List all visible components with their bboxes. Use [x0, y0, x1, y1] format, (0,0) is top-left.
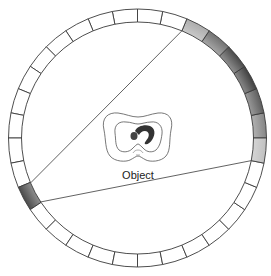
object-cross-section: Object — [103, 113, 171, 181]
object-label: Object — [122, 169, 154, 181]
detector-ring — [9, 9, 267, 267]
lung-outline — [115, 122, 162, 152]
detector-segment — [11, 89, 30, 116]
active-detector-segment — [251, 138, 266, 163]
detector-segment — [138, 9, 163, 24]
detector-segment — [9, 113, 24, 138]
detector-segment — [112, 252, 137, 267]
heart-chamber — [131, 132, 138, 140]
spine — [133, 150, 143, 155]
detector-segment — [112, 9, 137, 24]
detector-segment — [138, 252, 163, 267]
detector-segment — [88, 245, 115, 264]
fan-beam-lower-edge — [41, 161, 252, 202]
detector-segment — [245, 161, 264, 188]
ct-scanner-diagram: Object — [0, 0, 271, 276]
heart-mass — [135, 125, 154, 144]
active-detector-segment — [251, 113, 266, 138]
detector-segment — [160, 11, 187, 30]
detector-segment — [9, 138, 24, 163]
